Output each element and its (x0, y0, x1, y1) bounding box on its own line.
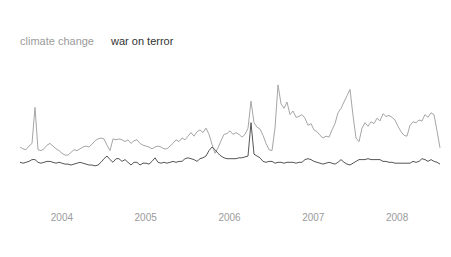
war-on-terror-line (20, 123, 440, 166)
x-tick-label-2007: 2007 (302, 212, 324, 223)
x-tick-label-2005: 2005 (135, 212, 157, 223)
trends-chart-panel: climate change war on terror 20042005200… (0, 0, 451, 257)
climate-change-line (20, 85, 440, 155)
x-tick-label-2006: 2006 (218, 212, 240, 223)
x-tick-label-2004: 2004 (51, 212, 73, 223)
x-axis: 20042005200620072008 (0, 212, 451, 226)
x-tick-label-2008: 2008 (386, 212, 408, 223)
